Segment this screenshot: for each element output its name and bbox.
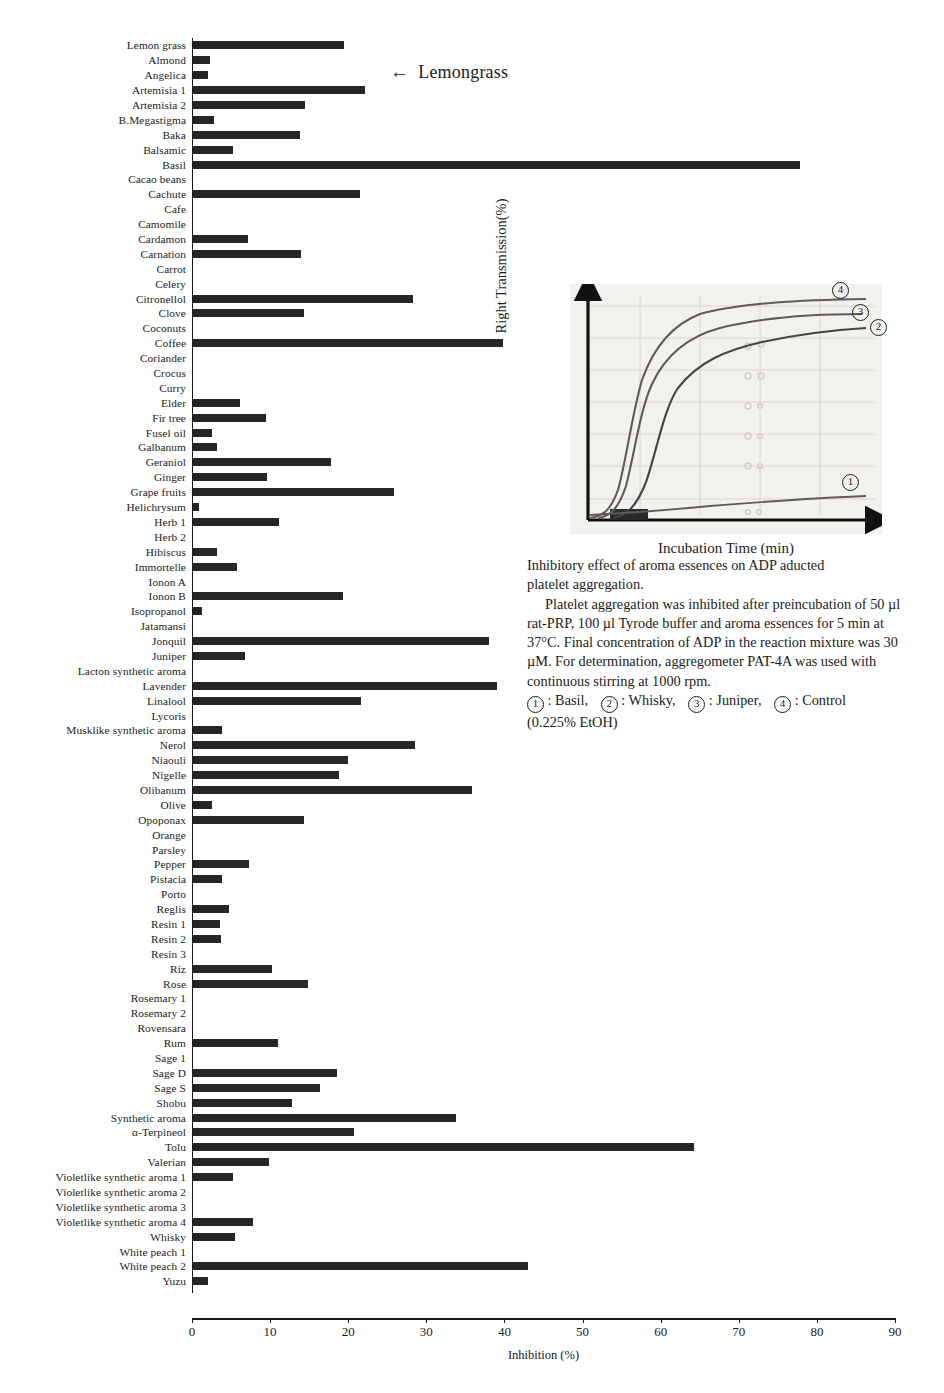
bar-category-label: Riz: [0, 963, 192, 975]
bar: [192, 71, 208, 79]
bar-category-label: Cacao beans: [0, 173, 192, 185]
bar-category-label: Lycoris: [0, 710, 192, 722]
x-tick: [739, 1318, 740, 1323]
bar-track: [192, 797, 910, 812]
bar-row: Violetlike synthetic aroma 3: [0, 1199, 910, 1214]
x-tick-label: 60: [654, 1324, 667, 1340]
bar-track: [192, 857, 910, 872]
bar-category-label: Linalool: [0, 695, 192, 707]
bar-row: Sage D: [0, 1065, 910, 1080]
bar: [192, 146, 233, 154]
bar-row: Rose: [0, 976, 910, 991]
bar-category-label: Hibiscus: [0, 546, 192, 558]
bar-track: [192, 98, 910, 113]
x-tick: [504, 1318, 505, 1323]
bar: [192, 592, 343, 600]
bar-track: [192, 902, 910, 917]
bar-track: [192, 1155, 910, 1170]
bar: [192, 697, 361, 705]
bar-category-label: Clove: [0, 307, 192, 319]
bar-row: B.Megastigma: [0, 112, 910, 127]
bar-track: [192, 68, 910, 83]
caption-line-1: Inhibitory effect of aroma essences on A…: [527, 556, 919, 575]
bar-row: Whisky: [0, 1229, 910, 1244]
bar: [192, 637, 489, 645]
bar: [192, 116, 214, 124]
inset-x-axis-label: Incubation Time (min): [570, 540, 882, 557]
bar-category-label: Jonquil: [0, 635, 192, 647]
bar-row: α-Terpineol: [0, 1125, 910, 1140]
bar: [192, 563, 237, 571]
bar: [192, 56, 210, 64]
bar-category-label: Tolu: [0, 1141, 192, 1153]
bar-category-label: Helichrysum: [0, 501, 192, 513]
bar-track: [192, 1095, 910, 1110]
bar-track: [192, 931, 910, 946]
bar: [192, 295, 413, 303]
bar-category-label: Musklike synthetic aroma: [0, 724, 192, 736]
legend-circle-3: 3: [688, 696, 705, 713]
bar-category-label: Valerian: [0, 1156, 192, 1168]
bar-category-label: Lacton synthetic aroma: [0, 665, 192, 677]
bar-category-label: Porto: [0, 888, 192, 900]
legend-circle-2: 2: [601, 696, 618, 713]
bar-category-label: Carnation: [0, 248, 192, 260]
bar-track: [192, 917, 910, 932]
bar: [192, 101, 305, 109]
bar: [192, 1173, 233, 1181]
bar-row: Resin 3: [0, 946, 910, 961]
bar-track: [192, 1244, 910, 1259]
bar-category-label: Sage D: [0, 1067, 192, 1079]
bar-row: Porto: [0, 887, 910, 902]
legend-circle-4: 4: [774, 696, 791, 713]
bar-category-label: Reglis: [0, 903, 192, 915]
bar-category-label: Shobu: [0, 1097, 192, 1109]
bar-category-label: Grape fruits: [0, 486, 192, 498]
bar-row: Shobu: [0, 1095, 910, 1110]
bar: [192, 771, 339, 779]
inset-plot: 4 3 2 1: [570, 284, 882, 534]
bar-row: Cacao beans: [0, 172, 910, 187]
bar-category-label: Lemon grass: [0, 39, 192, 51]
bar-track: [192, 38, 910, 53]
curve-label-4: 4: [832, 280, 849, 299]
bar-track: [192, 976, 910, 991]
bar-track: [192, 753, 910, 768]
bar: [192, 607, 202, 615]
bar-category-label: Curry: [0, 382, 192, 394]
bar-category-label: Jatamansi: [0, 620, 192, 632]
x-tick-label: 50: [576, 1324, 589, 1340]
bar-category-label: Niaouli: [0, 754, 192, 766]
bar-track: [192, 768, 910, 783]
bar-category-label: Rosemary 1: [0, 992, 192, 1004]
bar: [192, 920, 220, 928]
bar-row: Camomile: [0, 217, 910, 232]
bar-category-label: Elder: [0, 397, 192, 409]
bar-category-label: B.Megastigma: [0, 114, 192, 126]
bar-track: [192, 1170, 910, 1185]
bar: [192, 309, 304, 317]
bar-category-label: Ionon B: [0, 590, 192, 602]
bar-category-label: Fusel oil: [0, 427, 192, 439]
bar: [192, 86, 365, 94]
bar-track: [192, 827, 910, 842]
legend-label-1: : Basil,: [548, 692, 589, 708]
bar-track: [192, 112, 910, 127]
bar: [192, 786, 472, 794]
bar-row: Carnation: [0, 246, 910, 261]
x-tick: [817, 1318, 818, 1323]
bar-category-label: Geraniol: [0, 456, 192, 468]
x-tick-label: 30: [420, 1324, 433, 1340]
bar: [192, 875, 222, 883]
bar-track: [192, 1110, 910, 1125]
legend-label-4: : Control: [795, 692, 846, 708]
bar-track: [192, 1229, 910, 1244]
bar-category-label: Immortelle: [0, 561, 192, 573]
bar-track: [192, 991, 910, 1006]
bar-row: Cardamon: [0, 232, 910, 247]
bar: [192, 905, 229, 913]
bar-row: Olibanum: [0, 783, 910, 798]
bar-category-label: Coffee: [0, 337, 192, 349]
curve-label-2: 2: [870, 317, 887, 336]
x-tick-label: 40: [498, 1324, 511, 1340]
